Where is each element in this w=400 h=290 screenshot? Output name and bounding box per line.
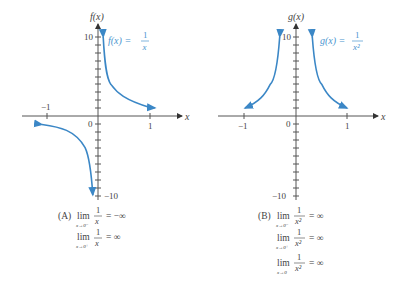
svg-text:lim: lim	[77, 232, 90, 242]
figure-canvas: 10 −10 −1 0 1 f(x) x f(x) = 1 x (A) lim …	[0, 0, 400, 290]
svg-text:x²: x²	[294, 263, 302, 273]
svg-text:1: 1	[96, 205, 100, 215]
y-axis-label-b: g(x)	[288, 11, 305, 23]
svg-text:x→0⁻: x→0⁻	[275, 223, 289, 228]
svg-text:1: 1	[143, 30, 148, 40]
svg-text:x²: x²	[294, 238, 302, 248]
y-tick-label-10-b: 10	[282, 32, 292, 42]
curve-f-negative	[42, 125, 93, 196]
svg-text:x: x	[94, 216, 99, 226]
panel-a-chart: 10 −10 −1 0 1 f(x) x f(x) = 1 x (A) lim …	[22, 11, 190, 249]
svg-text:= ∞: = ∞	[309, 233, 324, 243]
svg-text:lim: lim	[277, 211, 290, 221]
svg-text:x: x	[94, 238, 99, 248]
svg-text:x²: x²	[294, 216, 302, 226]
curve-f-positive	[103, 37, 155, 108]
svg-text:g(x) =: g(x) =	[320, 35, 345, 47]
limits-caption-a: (A) lim x→0⁻ 1 x = −∞ lim x→0⁺ 1 x = ∞	[58, 205, 126, 249]
y-axis-label-a: f(x)	[90, 11, 105, 23]
x-tick-label-neg1-a: −1	[41, 102, 51, 112]
y-tick-label-10-a: 10	[84, 32, 94, 42]
svg-text:x→0⁺: x→0⁺	[75, 244, 89, 249]
svg-text:= −∞: = −∞	[106, 211, 126, 221]
function-label-f: f(x) = 1 x	[108, 30, 149, 52]
svg-text:x: x	[142, 42, 147, 52]
svg-text:lim: lim	[77, 211, 90, 221]
curve-g-negative	[245, 37, 280, 108]
svg-text:(B): (B)	[258, 211, 271, 222]
y-tick-label-neg10-b: −10	[272, 191, 287, 201]
panel-b-chart: 10 −10 −1 0 1 g(x) x g(x) = 1 x² (B) lim…	[218, 11, 386, 275]
y-tick-label-neg10-a: −10	[104, 191, 119, 201]
svg-text:x→0: x→0	[276, 270, 287, 275]
curve-g-positive	[312, 37, 347, 108]
svg-text:1: 1	[96, 227, 100, 237]
svg-text:x→0⁻: x→0⁻	[75, 223, 89, 228]
x-tick-label-0-b: 0	[286, 119, 291, 129]
svg-text:1: 1	[355, 30, 360, 40]
svg-text:= ∞: = ∞	[106, 232, 121, 242]
limits-caption-b: (B) lim x→0⁻ 1 x² = ∞ lim x→0⁺ 1 x² = ∞ …	[258, 205, 324, 275]
x-axis-label-a: x	[184, 111, 190, 122]
x-tick-label-0-a: 0	[88, 119, 93, 129]
svg-text:x²: x²	[352, 42, 360, 52]
svg-text:x→0⁺: x→0⁺	[275, 245, 289, 250]
svg-text:1: 1	[297, 252, 301, 262]
function-label-g: g(x) = 1 x²	[320, 30, 363, 52]
svg-text:f(x) =: f(x) =	[108, 35, 131, 47]
svg-text:= ∞: = ∞	[309, 258, 324, 268]
x-tick-label-neg1-b: −1	[238, 121, 248, 131]
svg-text:1: 1	[297, 227, 301, 237]
x-tick-label-1-b: 1	[345, 121, 350, 131]
svg-text:= ∞: = ∞	[309, 211, 324, 221]
svg-text:(A): (A)	[58, 211, 71, 222]
x-axis-label-b: x	[380, 111, 386, 122]
svg-text:1: 1	[297, 205, 301, 215]
x-tick-label-1-a: 1	[148, 121, 153, 131]
svg-text:lim: lim	[277, 233, 290, 243]
svg-text:lim: lim	[277, 258, 290, 268]
